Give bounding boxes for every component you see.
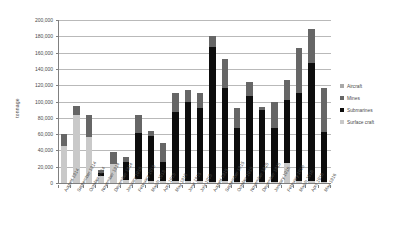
bar-group[interactable] — [185, 90, 191, 183]
bar-segment[interactable] — [222, 59, 228, 88]
bar-group[interactable] — [197, 93, 203, 183]
bar-segment[interactable] — [209, 47, 215, 182]
bar-segment[interactable] — [321, 88, 327, 131]
y-axis-tick-label: 60,000 — [15, 131, 53, 137]
bar-segment[interactable] — [73, 106, 79, 116]
bar-segment[interactable] — [209, 36, 215, 47]
bar-segment[interactable] — [172, 93, 178, 113]
bar-segment[interactable] — [246, 82, 252, 96]
bar-group[interactable] — [296, 48, 302, 183]
legend-swatch-icon — [340, 84, 344, 88]
x-axis-tick — [145, 185, 146, 188]
y-axis-tick-label: 80,000 — [15, 115, 53, 121]
bar-segment[interactable] — [271, 102, 277, 129]
x-axis-labels: August 1914September 1914October 1914Nov… — [58, 185, 330, 242]
legend-item[interactable]: Surface craft — [340, 116, 400, 128]
bar-segment[interactable] — [172, 112, 178, 180]
bar-segment[interactable] — [61, 134, 67, 145]
legend-item[interactable]: Mines — [340, 92, 400, 104]
legend-label: Surface craft — [347, 120, 374, 125]
bar-group[interactable] — [209, 36, 215, 184]
x-axis-tick — [70, 185, 71, 188]
x-axis-tick — [157, 185, 158, 188]
legend-label: Aircraft — [347, 84, 362, 89]
bar-segment[interactable] — [61, 146, 67, 183]
x-axis-tick — [132, 185, 133, 188]
bar-segment[interactable] — [234, 108, 240, 128]
y-axis-tick — [56, 183, 59, 184]
x-axis-tick — [58, 185, 59, 188]
bar-segment[interactable] — [185, 102, 191, 180]
x-axis-tick — [194, 185, 195, 188]
x-axis-tick — [243, 185, 244, 188]
bar-segment[interactable] — [135, 115, 141, 134]
bar-segment[interactable] — [185, 90, 191, 102]
x-axis-tick — [219, 185, 220, 188]
x-axis-tick — [305, 185, 306, 188]
legend-item[interactable]: Submarines — [340, 104, 400, 116]
y-axis-tick-label: 40,000 — [15, 147, 53, 153]
bar-segment[interactable] — [197, 93, 203, 108]
x-axis-tick — [330, 185, 331, 188]
legend-label: Submarines — [347, 108, 373, 113]
y-axis-tick-label: 100,000 — [15, 99, 53, 105]
x-axis-tick — [231, 185, 232, 188]
x-axis-tick — [206, 185, 207, 188]
x-axis-tick — [318, 185, 319, 188]
bar-group[interactable] — [61, 134, 67, 183]
y-axis-tick-label: 180,000 — [15, 33, 53, 39]
x-axis-tick — [293, 185, 294, 188]
legend-item[interactable]: Aircraft — [340, 80, 400, 92]
x-axis-tick — [120, 185, 121, 188]
chart-container: tonnage 200,000180,000160,000140,000120,… — [0, 0, 401, 242]
legend-swatch-icon — [340, 108, 344, 112]
x-axis-tick — [281, 185, 282, 188]
x-axis-tick — [107, 185, 108, 188]
bar-segment[interactable] — [284, 100, 290, 164]
x-axis-tick — [182, 185, 183, 188]
bar-segment[interactable] — [308, 63, 314, 181]
bars-layer — [58, 20, 330, 183]
x-axis-tick — [169, 185, 170, 188]
bar-segment[interactable] — [160, 143, 166, 162]
bar-segment[interactable] — [284, 80, 290, 100]
bar-segment[interactable] — [86, 115, 92, 138]
bar-group[interactable] — [321, 88, 327, 183]
x-axis-tick — [95, 185, 96, 188]
x-axis-tick — [83, 185, 84, 188]
y-axis-tick-label: 140,000 — [15, 66, 53, 72]
y-axis-tick-label: 0 — [15, 180, 53, 186]
y-axis-tick-label: 20,000 — [15, 164, 53, 170]
legend-swatch-icon — [340, 96, 344, 100]
y-axis-tick-label: 200,000 — [15, 17, 53, 23]
bar-group[interactable] — [222, 59, 228, 183]
chart-legend: AircraftMinesSubmarinesSurface craft — [340, 80, 400, 128]
x-axis-tick — [256, 185, 257, 188]
y-axis-tick-label: 160,000 — [15, 50, 53, 56]
bar-segment[interactable] — [308, 29, 314, 63]
legend-label: Mines — [347, 96, 360, 101]
bar-group[interactable] — [172, 93, 178, 183]
legend-swatch-icon — [340, 120, 344, 124]
bar-group[interactable] — [308, 29, 314, 183]
y-axis-tick-label: 120,000 — [15, 82, 53, 88]
x-axis-tick — [268, 185, 269, 188]
bar-segment[interactable] — [296, 48, 302, 94]
bar-segment[interactable] — [197, 108, 203, 181]
